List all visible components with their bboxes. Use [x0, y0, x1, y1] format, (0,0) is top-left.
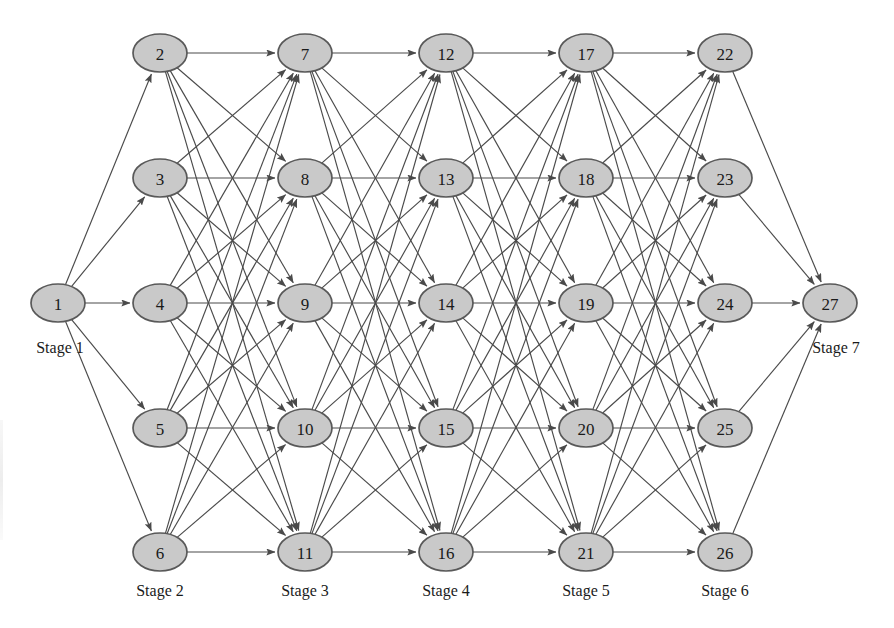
node-label-25: 25: [717, 420, 734, 439]
edge-6-to-8: [167, 199, 297, 534]
edge-16-to-18: [453, 199, 578, 533]
node-label-3: 3: [156, 170, 165, 189]
node-23[interactable]: 23: [698, 159, 752, 197]
node-label-24: 24: [717, 295, 735, 314]
stage-label-stage-3: Stage 3: [281, 582, 329, 600]
node-label-12: 12: [438, 45, 455, 64]
edge-3-to-7: [177, 70, 286, 164]
node-label-21: 21: [578, 544, 595, 563]
node-25[interactable]: 25: [698, 409, 752, 447]
edge-7-to-15: [312, 71, 438, 406]
node-10[interactable]: 10: [278, 409, 332, 447]
node-20[interactable]: 20: [559, 409, 613, 447]
stage-label-stage-5: Stage 5: [562, 582, 610, 600]
stage-label-stage-7: Stage 7: [812, 339, 860, 357]
node-24[interactable]: 24: [698, 284, 752, 322]
edge-11-to-13: [312, 199, 438, 533]
edge-18-to-22: [603, 70, 706, 163]
edge-5-to-11: [177, 443, 285, 536]
node-label-10: 10: [297, 420, 314, 439]
node-label-14: 14: [438, 295, 456, 314]
edge-5-to-7: [167, 74, 297, 410]
node-3[interactable]: 3: [133, 159, 187, 197]
node-17[interactable]: 17: [559, 34, 613, 72]
node-22[interactable]: 22: [698, 34, 752, 72]
figure-canvas: 1234567891011121314151617181920212223242…: [0, 0, 894, 628]
node-26[interactable]: 26: [698, 533, 752, 571]
node-label-8: 8: [301, 170, 310, 189]
edge-20-to-22: [593, 74, 717, 409]
edge-10-to-12: [312, 74, 438, 409]
edge-20-to-26: [603, 443, 706, 535]
edge-8-to-12: [322, 70, 427, 163]
edge-13-to-21: [453, 196, 578, 530]
node-label-9: 9: [301, 295, 310, 314]
edge-12-to-20: [453, 71, 578, 406]
edge-8-to-16: [312, 196, 438, 530]
node-14[interactable]: 14: [419, 284, 473, 322]
node-label-11: 11: [297, 544, 313, 563]
nodes-group: 1234567891011121314151617181920212223242…: [31, 34, 857, 571]
node-label-27: 27: [822, 295, 840, 314]
node-6[interactable]: 6: [133, 533, 187, 571]
edge-15-to-21: [463, 443, 567, 535]
node-4[interactable]: 4: [133, 284, 187, 322]
node-label-19: 19: [578, 295, 595, 314]
node-8[interactable]: 8: [278, 159, 332, 197]
node-13[interactable]: 13: [419, 159, 473, 197]
node-label-1: 1: [54, 295, 63, 314]
node-7[interactable]: 7: [278, 34, 332, 72]
node-label-4: 4: [156, 295, 165, 314]
node-label-5: 5: [156, 420, 165, 439]
node-label-22: 22: [717, 45, 734, 64]
node-label-16: 16: [438, 544, 455, 563]
node-label-7: 7: [301, 45, 310, 64]
node-12[interactable]: 12: [419, 34, 473, 72]
edge-4-to-7: [170, 73, 293, 285]
stage-label-stage-4: Stage 4: [422, 582, 470, 600]
node-5[interactable]: 5: [133, 409, 187, 447]
network-graph: 1234567891011121314151617181920212223242…: [0, 0, 894, 628]
node-21[interactable]: 21: [559, 533, 613, 571]
stage-label-stage-1: Stage 1: [36, 339, 84, 357]
node-label-18: 18: [578, 170, 595, 189]
node-label-23: 23: [717, 170, 734, 189]
edge-15-to-17: [453, 74, 578, 409]
node-15[interactable]: 15: [419, 409, 473, 447]
node-label-20: 20: [578, 420, 595, 439]
node-19[interactable]: 19: [559, 284, 613, 322]
node-2[interactable]: 2: [133, 34, 187, 72]
edge-2-to-10: [167, 71, 297, 407]
edge-1-to-5: [71, 319, 144, 409]
edge-18-to-26: [593, 196, 717, 530]
node-18[interactable]: 18: [559, 159, 613, 197]
node-label-6: 6: [156, 544, 165, 563]
edge-21-to-23: [593, 199, 717, 533]
node-label-13: 13: [438, 170, 455, 189]
node-label-15: 15: [438, 420, 455, 439]
edge-3-to-11: [167, 196, 297, 531]
edge-8-to-15: [315, 196, 435, 408]
node-9[interactable]: 9: [278, 284, 332, 322]
edge-9-to-12: [315, 73, 435, 285]
node-16[interactable]: 16: [419, 533, 473, 571]
stage-label-stage-2: Stage 2: [136, 582, 184, 600]
node-label-26: 26: [717, 544, 734, 563]
node-11[interactable]: 11: [278, 533, 332, 571]
stage-label-stage-6: Stage 6: [701, 582, 749, 600]
node-1[interactable]: 1: [31, 284, 85, 322]
edge-13-to-17: [463, 70, 567, 163]
edge-17-to-25: [593, 71, 717, 406]
node-label-2: 2: [156, 45, 165, 64]
node-label-17: 17: [578, 45, 596, 64]
node-27[interactable]: 27: [803, 284, 857, 322]
edge-3-to-10: [170, 196, 293, 408]
edge-10-to-16: [322, 443, 427, 535]
